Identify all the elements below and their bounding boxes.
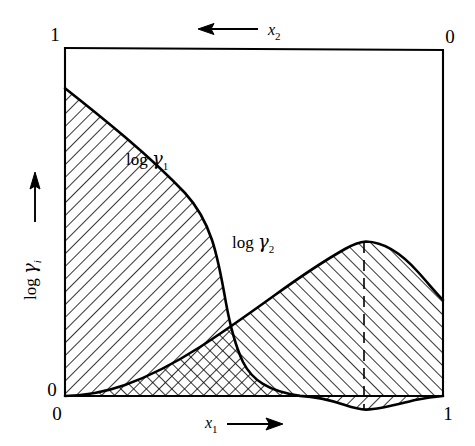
top-axis-right-label: 0	[445, 26, 455, 47]
curve-label-gamma-2-prefix: log	[232, 233, 258, 252]
log-gamma-axis-subscript: i	[31, 260, 43, 263]
bottom-axis-right-label: 1	[443, 403, 453, 424]
curve-label-gamma-1-subscript: 1	[163, 160, 169, 172]
x1-axis-subscript: 1	[212, 423, 218, 435]
bottom-axis-left-label: 0	[52, 403, 62, 424]
x2-axis-subscript: 2	[275, 30, 281, 42]
left-axis-zero-label: 0	[47, 379, 57, 400]
log-gamma-axis-arrow-icon	[30, 172, 40, 222]
x1-axis-label: x1	[204, 414, 218, 435]
top-axis-left-label: 1	[50, 24, 60, 45]
curve-label-gamma-2-symbol: γ	[258, 231, 269, 252]
figure-root: 1 0 0 0 1 x2 x1 log γi log γ1 log γ2	[0, 0, 475, 446]
log-gamma-axis-label: log γi	[19, 260, 43, 300]
curve-label-gamma-1-symbol: γ	[152, 148, 163, 169]
log-gamma-axis-prefix: log	[21, 274, 40, 300]
curve-label-gamma-2: log γ2	[232, 231, 274, 255]
activity-coefficient-chart: 1 0 0 0 1 x2 x1 log γi log γ1 log γ2	[0, 0, 475, 446]
x1-axis-variable: x	[204, 414, 212, 431]
x2-axis-label: x2	[267, 21, 281, 42]
curve-label-gamma-1-prefix: log	[126, 150, 152, 169]
x2-axis-variable: x	[267, 21, 275, 38]
x2-axis-arrow-icon	[198, 24, 258, 35]
frame-top	[64, 48, 444, 50]
curve-label-gamma-2-subscript: 2	[269, 243, 275, 255]
curve-label-gamma-1: log γ1	[126, 148, 168, 172]
x1-axis-arrow-icon	[227, 418, 283, 430]
log-gamma-axis-symbol: γ	[19, 263, 40, 274]
